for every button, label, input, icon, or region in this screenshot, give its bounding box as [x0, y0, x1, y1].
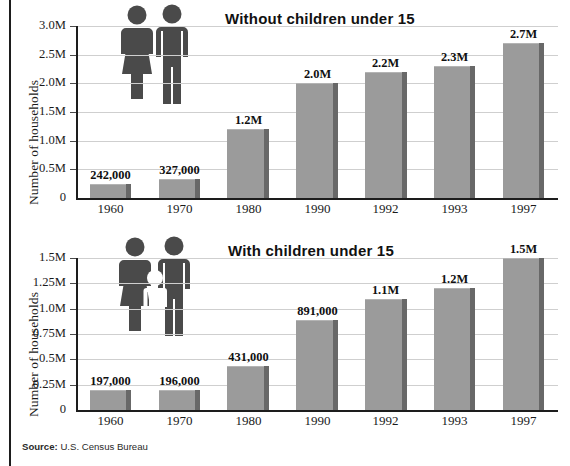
y-axis-tick-label: 0.5M	[2, 351, 66, 366]
figure-root: Number of households Without children un…	[0, 0, 570, 466]
bar	[90, 184, 131, 198]
x-axis-tick-label: 1970	[145, 201, 214, 217]
chart-panel-with-children: Number of households With children under…	[0, 232, 570, 432]
bar-value-label: 2.2M	[351, 56, 420, 71]
bar-shadow	[195, 390, 200, 410]
bar-shadow	[126, 184, 131, 198]
bar-shadow	[195, 179, 200, 198]
y-axis-tick-label: 0.25M	[2, 377, 66, 392]
x-axis-tick-label: 1993	[420, 413, 489, 429]
bar-value-label: 1.2M	[214, 113, 283, 128]
bar	[90, 390, 131, 410]
bar	[227, 366, 268, 410]
bar-shadow	[539, 43, 544, 198]
bar	[227, 129, 268, 198]
x-axis-tick-label: 1970	[145, 413, 214, 429]
bar	[365, 72, 406, 198]
y-axis-tick-label: 1.5M	[2, 104, 66, 119]
bar	[503, 43, 544, 198]
bar-value-label: 1.1M	[351, 283, 420, 298]
bar	[159, 390, 200, 410]
y-axis-tick-label: 0	[2, 402, 66, 417]
bar	[434, 66, 475, 198]
bar-value-label: 891,000	[283, 304, 352, 319]
y-axis-tick-label: 0	[2, 190, 66, 205]
bar	[296, 320, 337, 410]
gridline	[76, 258, 558, 259]
y-axis-tick-label: 1.0M	[2, 133, 66, 148]
x-axis-tick-label: 1990	[283, 201, 352, 217]
bar	[296, 83, 337, 198]
bar-value-label: 2.3M	[420, 50, 489, 65]
plot-area-bottom: 00.25M0.5M0.75M1.0M1.25M1.5M197,00019601…	[0, 232, 570, 434]
bar-value-label: 2.0M	[283, 67, 352, 82]
x-axis-tick-label: 1992	[351, 201, 420, 217]
bar-value-label: 197,000	[76, 374, 145, 389]
plot-area-top: 00.5M1.0M1.5M2.0M2.5M3.0M242,0001960327,…	[0, 0, 570, 222]
bar-shadow	[264, 366, 269, 410]
bar	[503, 258, 544, 410]
bar-shadow	[539, 258, 544, 410]
bar-shadow	[333, 83, 338, 198]
source-note: Source: U.S. Census Bureau	[22, 441, 148, 452]
bar-shadow	[402, 299, 407, 410]
y-axis-tick-label: 0.75M	[2, 326, 66, 341]
bar-value-label: 327,000	[145, 163, 214, 178]
bar-shadow	[402, 72, 407, 198]
bar-value-label: 1.2M	[420, 272, 489, 287]
x-axis-tick-label: 1980	[214, 413, 283, 429]
x-axis-tick-label: 1993	[420, 201, 489, 217]
bar-shadow	[264, 129, 269, 198]
bar-value-label: 2.7M	[489, 27, 558, 42]
source-value: U.S. Census Bureau	[60, 441, 147, 452]
source-label: Source:	[22, 441, 58, 452]
y-axis-tick-label: 1.0M	[2, 301, 66, 316]
y-axis-tick-label: 1.25M	[2, 275, 66, 290]
gridline	[76, 26, 558, 27]
bar-shadow	[470, 66, 475, 198]
bar-value-label: 431,000	[214, 350, 283, 365]
x-axis-tick-label: 1992	[351, 413, 420, 429]
bar-shadow	[126, 390, 131, 410]
bar	[159, 179, 200, 198]
x-axis-line	[76, 198, 558, 200]
y-axis-tick-label: 2.5M	[2, 47, 66, 62]
x-axis-tick-label: 1997	[489, 201, 558, 217]
x-axis-tick-label: 1980	[214, 201, 283, 217]
x-axis-line	[76, 410, 558, 412]
bar	[434, 288, 475, 410]
y-axis-tick-label: 1.5M	[2, 250, 66, 265]
bar	[365, 299, 406, 410]
bar-value-label: 196,000	[145, 374, 214, 389]
bar-shadow	[333, 320, 338, 410]
y-axis-tick-label: 3.0M	[2, 18, 66, 33]
x-axis-tick-label: 1960	[76, 413, 145, 429]
x-axis-tick-label: 1960	[76, 201, 145, 217]
bar-value-label: 242,000	[76, 168, 145, 183]
y-axis-tick-label: 0.5M	[2, 161, 66, 176]
x-axis-tick-label: 1990	[283, 413, 352, 429]
bar-shadow	[470, 288, 475, 410]
bar-value-label: 1.5M	[489, 242, 558, 257]
y-axis-tick-label: 2.0M	[2, 75, 66, 90]
chart-panel-without-children: Number of households Without children un…	[0, 0, 570, 228]
x-axis-tick-label: 1997	[489, 413, 558, 429]
